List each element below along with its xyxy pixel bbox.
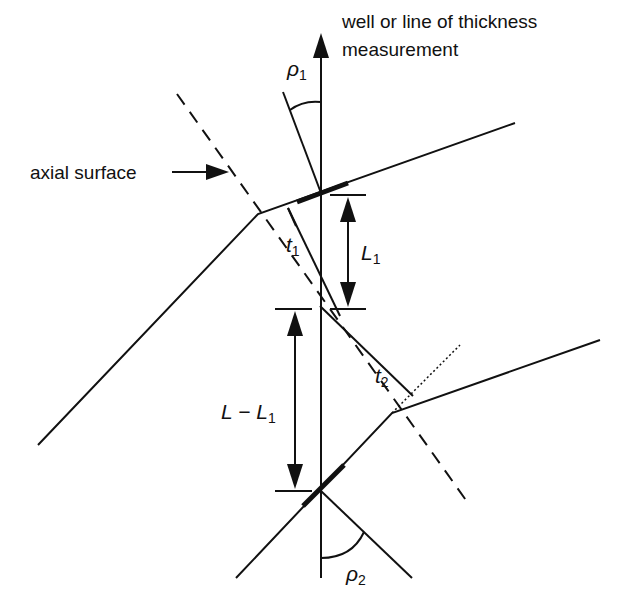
- axial-surface-label: axial surface: [30, 162, 137, 183]
- down-arrow-icon: [340, 282, 356, 307]
- well-label-line1: well or line of thickness: [341, 11, 537, 32]
- lower-bed-projection-dotted: [392, 345, 460, 413]
- right-arrow-icon: [206, 164, 229, 180]
- up-arrow-icon: [340, 197, 356, 222]
- down-arrow-icon: [287, 464, 303, 489]
- L-minus-L1-dimension: [275, 309, 312, 491]
- L1-label: L1: [361, 241, 381, 267]
- lower-bed: [236, 340, 600, 578]
- t2-label: t2: [375, 364, 389, 390]
- up-arrow-icon: [313, 33, 329, 58]
- well-label-line2: measurement: [342, 39, 459, 60]
- lower-measured-segment: [303, 465, 344, 506]
- up-arrow-icon: [287, 311, 303, 336]
- L-minus-L1-label: L − L1: [221, 400, 276, 426]
- axial-surface-pointer: [172, 164, 229, 180]
- upper-measured-segment: [297, 183, 348, 202]
- rho1-label: ρ1: [286, 57, 307, 83]
- rho1-angle: [283, 92, 321, 193]
- rho2-angle: [321, 491, 412, 578]
- rho2-label: ρ2: [345, 562, 366, 588]
- t2-normal-line: [320, 306, 413, 396]
- t1-label: t1: [286, 233, 300, 259]
- fold-thickness-diagram: well or line of thickness measurement ax…: [0, 0, 622, 613]
